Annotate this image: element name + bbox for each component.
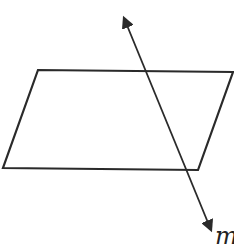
line-label-m: m: [215, 222, 234, 250]
plane-parallelogram: [3, 70, 233, 170]
line-m: [124, 18, 211, 230]
diagram-canvas: m: [0, 0, 234, 251]
